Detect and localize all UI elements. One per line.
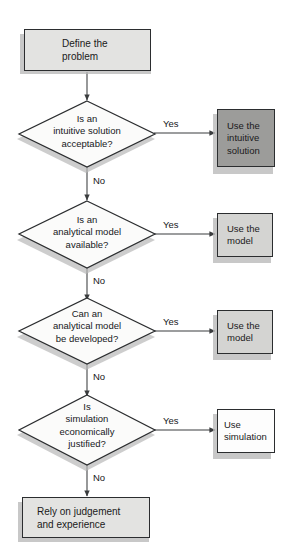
process-use-model-2[interactable]: Use the model bbox=[217, 310, 273, 354]
process-use-simulation-label: Use simulation bbox=[218, 419, 274, 444]
process-define-problem-label: Define the problem bbox=[25, 37, 150, 63]
edge-label-yes-3: Yes bbox=[163, 316, 179, 327]
edge-label-no-3: No bbox=[93, 371, 105, 382]
process-use-model-1-label: Use the model bbox=[218, 223, 272, 248]
decision-analytical-model-developed[interactable]: Can an analytical model be developed? bbox=[19, 298, 155, 364]
edge-label-no-2: No bbox=[93, 275, 105, 286]
decision-intuitive-solution-label: Is an intuitive solution acceptable? bbox=[19, 113, 155, 150]
process-use-intuitive-solution-label: Use the intuitive solution bbox=[218, 120, 274, 157]
process-use-intuitive-solution[interactable]: Use the intuitive solution bbox=[217, 109, 275, 167]
decision-simulation-justified[interactable]: Is simulation economically justified? bbox=[19, 395, 155, 465]
decision-intuitive-solution[interactable]: Is an intuitive solution acceptable? bbox=[19, 101, 155, 167]
process-define-problem[interactable]: Define the problem bbox=[24, 29, 151, 71]
process-use-model-1[interactable]: Use the model bbox=[217, 213, 273, 257]
edge-label-no-4: No bbox=[93, 472, 105, 483]
process-use-model-2-label: Use the model bbox=[218, 320, 272, 345]
process-use-simulation[interactable]: Use simulation bbox=[217, 409, 275, 453]
decision-simulation-justified-label: Is simulation economically justified? bbox=[19, 401, 155, 450]
edge-label-yes-4: Yes bbox=[163, 415, 179, 426]
process-rely-on-judgement[interactable]: Rely on judgement and experience bbox=[22, 497, 150, 538]
decision-analytical-model-available-label: Is an analytical model available? bbox=[19, 214, 155, 251]
decision-analytical-model-available[interactable]: Is an analytical model available? bbox=[19, 201, 155, 268]
flowchart-connectors bbox=[0, 0, 288, 560]
edge-label-no-1: No bbox=[93, 175, 105, 186]
decision-analytical-model-developed-label: Can an analytical model be developed? bbox=[19, 308, 155, 345]
process-rely-on-judgement-label: Rely on judgement and experience bbox=[23, 505, 149, 531]
flowchart-canvas: Define the problem Is an intuitive solut… bbox=[0, 0, 288, 560]
edge-label-yes-1: Yes bbox=[163, 118, 179, 129]
edge-label-yes-2: Yes bbox=[163, 219, 179, 230]
